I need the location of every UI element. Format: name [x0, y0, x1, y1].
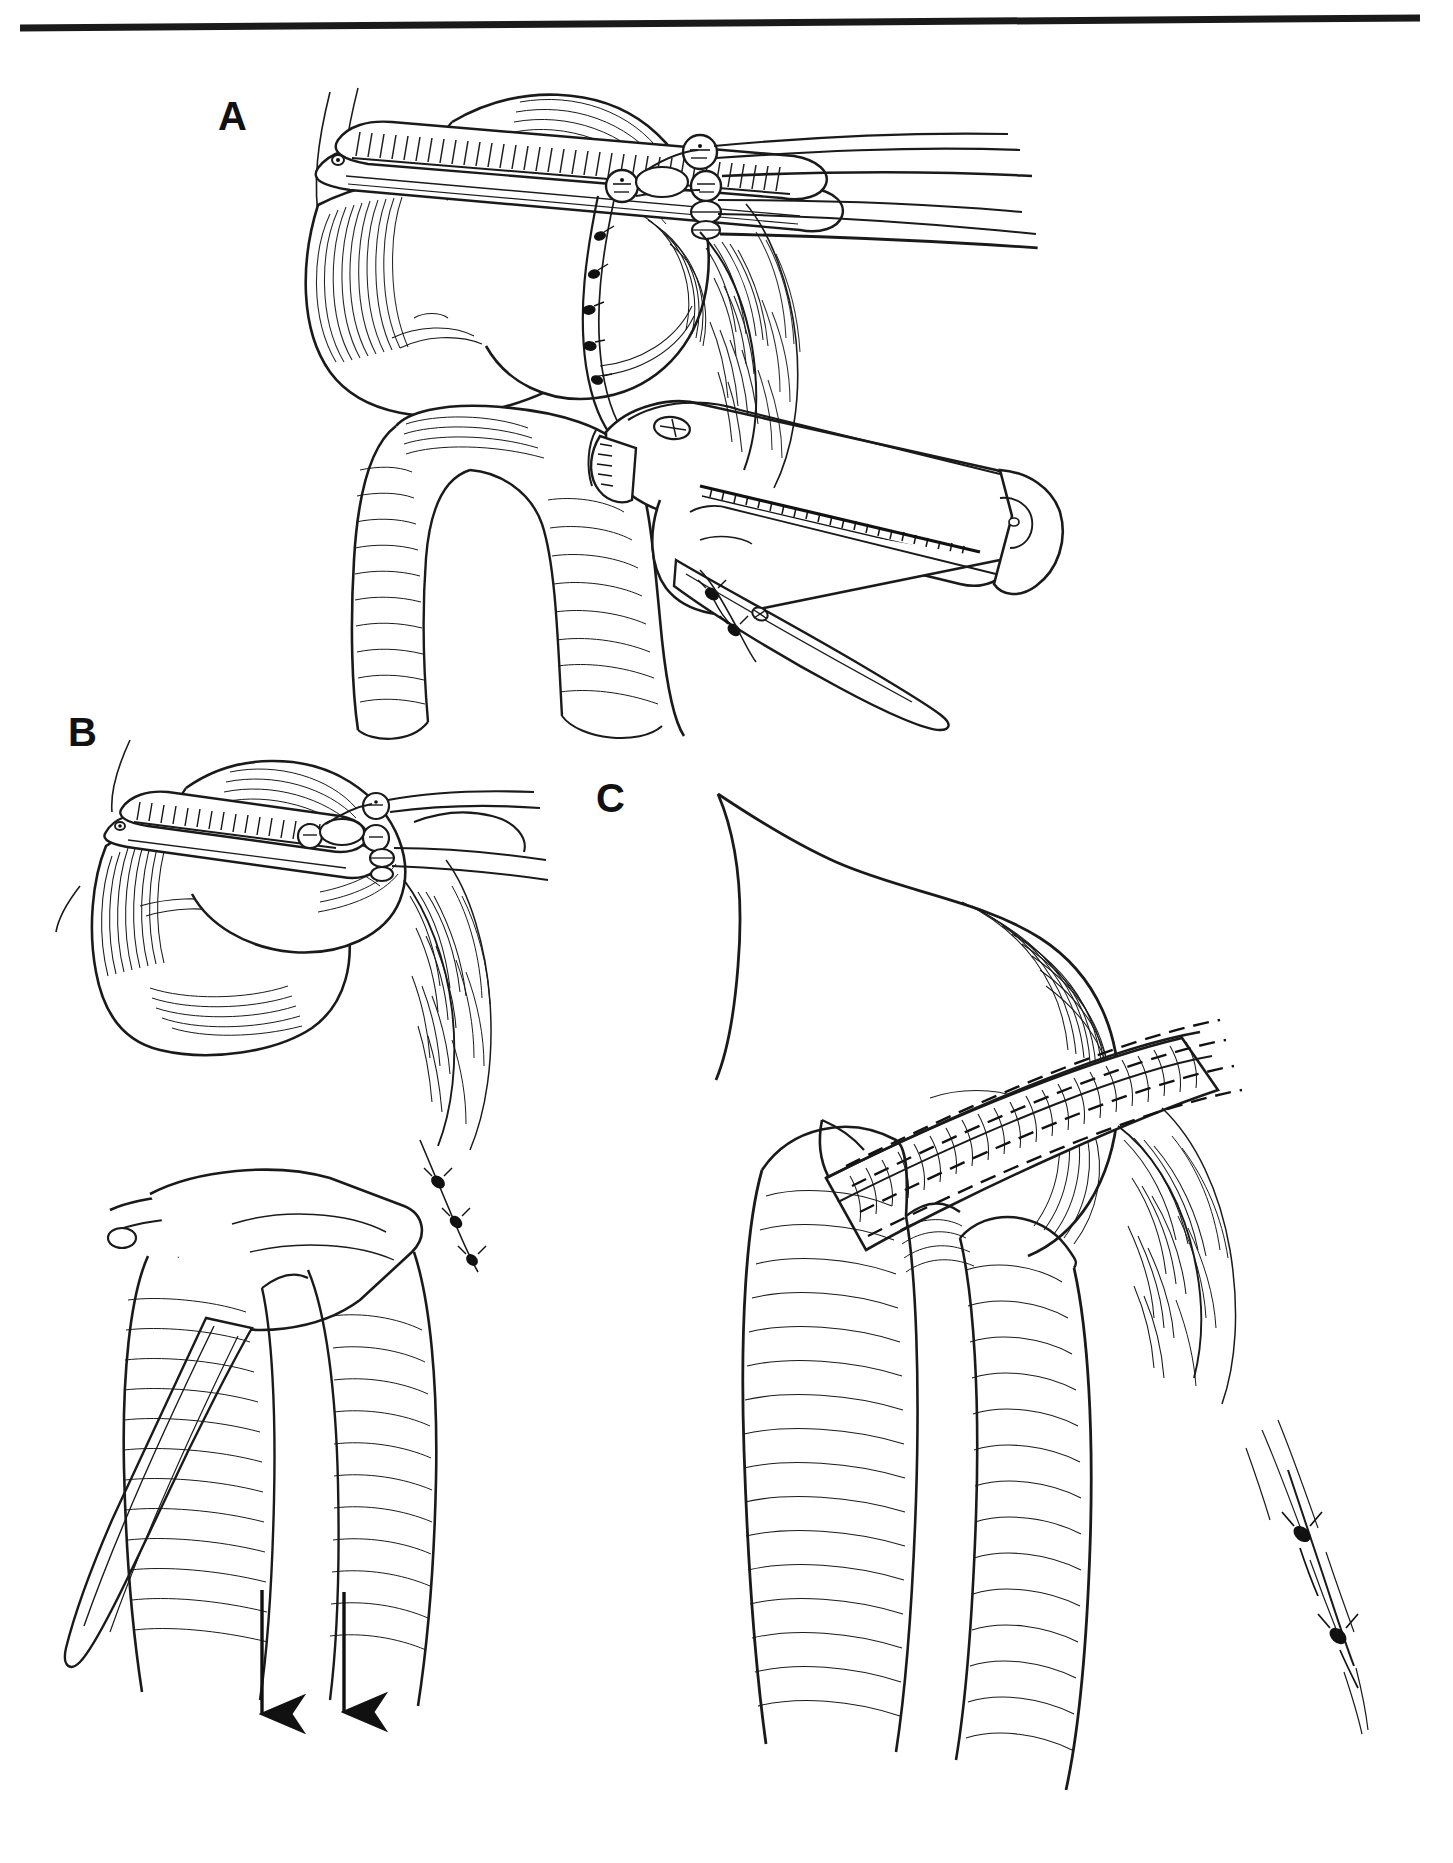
panel-label-c: C [596, 778, 625, 818]
panel-label-b: B [68, 712, 97, 752]
illustration-canvas [0, 0, 1453, 1863]
figure-root: A B C [0, 0, 1453, 1863]
panel-label-a: A [218, 96, 247, 136]
